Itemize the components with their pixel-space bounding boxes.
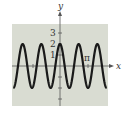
x-axis-label: x	[116, 61, 121, 71]
x-tick-pi: π	[84, 53, 90, 63]
y-axis-arrow-icon	[58, 11, 62, 16]
y-tick-1: 1	[50, 50, 56, 60]
y-tick-2: 2	[50, 39, 56, 49]
cosine-graph: x y 3 2 1 π	[0, 0, 129, 113]
x-axis-arrow-icon	[109, 64, 114, 68]
y-tick-3: 3	[50, 28, 56, 38]
y-axis-label: y	[57, 1, 64, 11]
